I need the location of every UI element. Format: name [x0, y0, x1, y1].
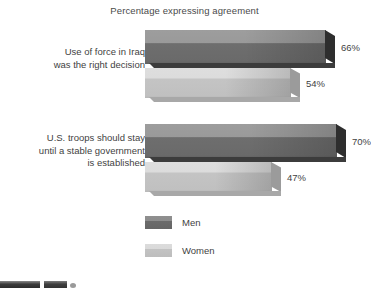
scan-edge-artifact — [0, 281, 76, 288]
bar-face — [145, 68, 291, 98]
bar-end-cap — [290, 68, 300, 98]
bar-group: Use of force in Iraq was the right decis… — [0, 28, 369, 104]
bar-end-cap — [271, 162, 281, 192]
bar-end-cap — [336, 124, 346, 158]
chart-title: Percentage expressing agreement — [0, 5, 369, 16]
legend-item-women[interactable]: Women — [145, 242, 325, 264]
bar-shape — [145, 162, 281, 192]
bar-shape — [145, 68, 300, 98]
bar-bottom-bevel — [149, 97, 300, 102]
bar-value-label: 70% — [352, 136, 371, 147]
bar-face — [145, 124, 337, 158]
bar-bottom-bevel — [149, 191, 281, 196]
bar-face — [145, 30, 326, 64]
legend-swatch-women-icon — [145, 244, 172, 257]
category-label: U.S. troops should stay until a stable g… — [0, 132, 145, 170]
scan-artifact-segment — [0, 281, 40, 288]
bar-women[interactable]: 47% — [145, 162, 281, 192]
bar-men[interactable]: 70% — [145, 124, 346, 158]
bar-end-cap — [325, 30, 335, 64]
legend-label: Women — [182, 242, 215, 259]
bar-value-label: 66% — [341, 42, 360, 53]
legend-swatch-men-icon — [145, 216, 172, 229]
bar-men[interactable]: 66% — [145, 30, 335, 64]
legend-item-men[interactable]: Men — [145, 214, 325, 236]
bar-shape — [145, 124, 346, 158]
legend-label: Men — [182, 214, 200, 231]
category-label: Use of force in Iraq was the right decis… — [0, 46, 145, 71]
scan-artifact-segment — [44, 281, 67, 288]
scan-artifact-segment — [70, 283, 76, 288]
plot-area: Use of force in Iraq was the right decis… — [0, 22, 369, 202]
bar-shape — [145, 30, 335, 64]
bar-women[interactable]: 54% — [145, 68, 300, 98]
bar-value-label: 47% — [287, 172, 306, 183]
chart-legend: Men Women — [145, 214, 325, 270]
bar-group: U.S. troops should stay until a stable g… — [0, 122, 369, 198]
bar-face — [145, 162, 272, 192]
bar-value-label: 54% — [306, 78, 325, 89]
